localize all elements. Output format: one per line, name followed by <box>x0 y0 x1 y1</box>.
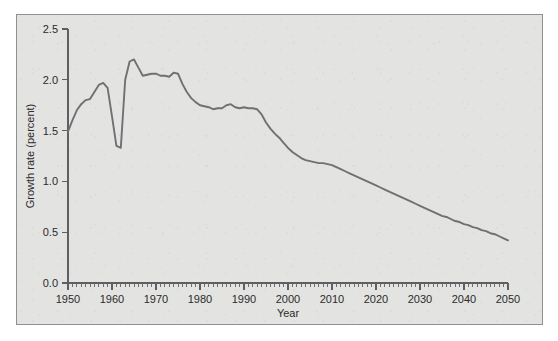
y-axis-title: Growth rate (percent) <box>24 104 36 209</box>
x-axis-tick-label: 1980 <box>188 293 212 305</box>
data-series <box>68 59 508 240</box>
x-axis-tick-label: 2030 <box>408 293 432 305</box>
x-axis-tick-label: 1950 <box>56 293 80 305</box>
x-axis-tick-label: 2010 <box>320 293 344 305</box>
x-axis-title: Year <box>277 307 300 319</box>
y-axis-tick-label: 0.5 <box>43 226 58 238</box>
x-axis-tick-label: 1970 <box>144 293 168 305</box>
y-axis-tick-label: 2.5 <box>43 23 58 35</box>
x-axis-tick-label: 1960 <box>100 293 124 305</box>
x-axis-tick-label: 1990 <box>232 293 256 305</box>
x-axis-tick-label: 2050 <box>496 293 520 305</box>
x-axis-tick-label: 2020 <box>364 293 388 305</box>
x-axis: 1950196019701980199020002010202020302040… <box>56 283 520 305</box>
y-axis: 0.00.51.01.52.02.5 <box>43 23 68 289</box>
y-axis-tick-label: 2.0 <box>43 74 58 86</box>
y-axis-tick-label: 0.0 <box>43 277 58 289</box>
figure-root: 0.00.51.01.52.02.5 195019601970198019902… <box>0 0 558 341</box>
series-line <box>68 59 508 240</box>
line-chart: 0.00.51.01.52.02.5 195019601970198019902… <box>0 0 558 341</box>
y-axis-tick-label: 1.0 <box>43 175 58 187</box>
y-axis-tick-label: 1.5 <box>43 125 58 137</box>
x-axis-tick-label: 2000 <box>276 293 300 305</box>
x-axis-tick-label: 2040 <box>452 293 476 305</box>
